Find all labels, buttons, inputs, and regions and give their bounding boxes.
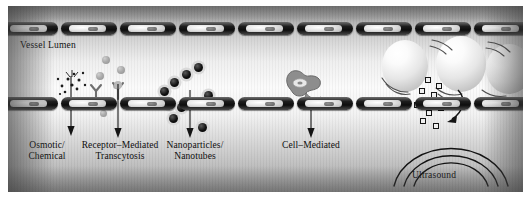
drug-particle [419, 88, 425, 94]
endothelial-row-bottom [8, 97, 523, 110]
mechanism-label-nanoparticles: Nanoparticles/ Nanotubes [150, 140, 240, 162]
ligand-sphere [100, 110, 107, 117]
endothelial-cell [415, 97, 471, 110]
endothelial-cell [179, 22, 235, 35]
endothelial-cell [61, 97, 117, 110]
nanoparticle [182, 70, 191, 79]
vignette-top [8, 6, 523, 22]
cell-nucleus [187, 100, 224, 107]
endothelial-cell [120, 97, 176, 110]
rmt-arrow [111, 84, 125, 140]
cell-nucleus [364, 25, 401, 32]
label-line-1: Receptor–Mediated [82, 140, 159, 150]
nanoparticle [170, 78, 179, 87]
cell-nucleus [423, 100, 460, 107]
endothelial-cell [297, 97, 353, 110]
cell-nucleus [128, 100, 165, 107]
cell-nucleus [246, 25, 283, 32]
nanoparticle [160, 87, 169, 96]
drug-particle [420, 118, 426, 124]
cell-nucleus [246, 100, 283, 107]
cell-nucleus [69, 25, 106, 32]
endothelial-cell [120, 22, 176, 35]
endothelial-cell [297, 22, 353, 35]
cell-nucleus [187, 25, 224, 32]
label-line-1: Nanoparticles/ [167, 140, 224, 150]
endothelial-cell [356, 97, 412, 110]
mechanism-label-cell-mediated: Cell–Mediated [261, 140, 361, 151]
ligand-sphere [102, 56, 110, 64]
cell-nucleus [305, 100, 342, 107]
vignette-left [8, 6, 54, 192]
label-line-1: Cell–Mediated [282, 140, 340, 150]
label-line-2: Nanotubes [174, 151, 216, 161]
ligand-sphere [96, 72, 104, 80]
nanoparticle [169, 114, 178, 123]
endothelial-cell [238, 97, 294, 110]
nanoparticle [198, 123, 207, 132]
drug-particle [425, 77, 431, 83]
cell-nucleus [69, 100, 106, 107]
vignette-bottom [8, 166, 523, 192]
cell-nucleus [305, 25, 342, 32]
illustration-plate: Vessel Lumen Osmotic/ Chemical [8, 6, 523, 192]
figure-root: Vessel Lumen Osmotic/ Chemical [0, 0, 531, 199]
label-line-2: Transcytosis [96, 151, 145, 161]
ligand-sphere [117, 66, 125, 74]
cell-nucleus [423, 25, 460, 32]
endothelial-cell [179, 97, 235, 110]
cell-nucleus [364, 100, 401, 107]
endothelial-cell [238, 22, 294, 35]
cell-nucleus [128, 25, 165, 32]
nanoparticle [194, 63, 203, 72]
vignette-right [483, 6, 523, 192]
endothelial-cell [61, 22, 117, 35]
